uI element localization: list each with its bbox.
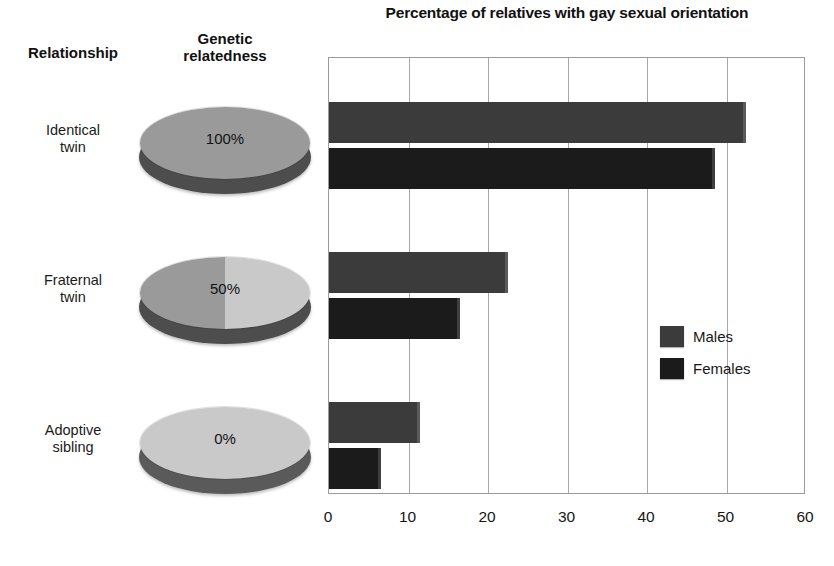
x-tick-label-50: 50 (704, 508, 748, 526)
legend-swatch-males-icon (660, 326, 684, 347)
relationship-label-line1: Fraternal (10, 272, 136, 289)
relationship-label-line1: Identical (10, 122, 136, 139)
bar-identical-twin-males[interactable] (329, 102, 746, 143)
legend-swatch-females-icon (660, 358, 684, 379)
column-header-genetic-relatedness: Genetic relatedness (140, 31, 310, 65)
column-header-genetic-line1: Genetic (140, 31, 310, 48)
bar-fraternal-twin-females[interactable] (329, 298, 460, 339)
relationship-label-fraternal-twin: Fraternal twin (10, 272, 136, 307)
pie-value-identical-twin: 100% (135, 130, 315, 147)
x-tick-label-60: 60 (783, 508, 827, 526)
chart-figure: Percentage of relatives with gay sexual … (0, 0, 834, 566)
pie-chart-identical-twin: 100% (135, 104, 315, 208)
pie-chart-fraternal-twin: 50% (135, 254, 315, 358)
x-tick-label-20: 20 (465, 508, 509, 526)
bar-fraternal-twin-males[interactable] (329, 252, 508, 293)
pie-chart-adoptive-sibling: 0% (135, 404, 315, 508)
bar-cap (743, 102, 746, 143)
legend-item-females[interactable]: Females (660, 352, 792, 384)
relationship-label-line2: twin (10, 139, 136, 156)
chart-legend: Males Females (660, 320, 792, 384)
x-tick-label-10: 10 (386, 508, 430, 526)
legend-label-females: Females (693, 360, 751, 377)
relationship-label-line1: Adoptive (10, 422, 136, 439)
bar-cap (378, 448, 381, 489)
relationship-label-identical-twin: Identical twin (10, 122, 136, 157)
legend-label-males: Males (693, 328, 733, 345)
column-header-relationship: Relationship (18, 44, 128, 61)
column-header-genetic-line2: relatedness (140, 48, 310, 65)
chart-title: Percentage of relatives with gay sexual … (328, 4, 806, 22)
bar-adoptive-sibling-females[interactable] (329, 448, 381, 489)
relationship-label-line2: twin (10, 289, 136, 306)
bar-cap (417, 402, 420, 443)
x-tick-label-0: 0 (306, 508, 350, 526)
relationship-label-adoptive-sibling: Adoptive sibling (10, 422, 136, 457)
plot-area (328, 57, 805, 494)
bar-adoptive-sibling-males[interactable] (329, 402, 420, 443)
pie-value-adoptive-sibling: 0% (135, 430, 315, 447)
bar-cap (457, 298, 460, 339)
x-tick-label-40: 40 (624, 508, 668, 526)
bar-cap (712, 148, 715, 189)
bar-identical-twin-females[interactable] (329, 148, 715, 189)
x-tick-label-30: 30 (545, 508, 589, 526)
bar-cap (505, 252, 508, 293)
pie-value-fraternal-twin: 50% (135, 280, 315, 297)
relationship-label-line2: sibling (10, 439, 136, 456)
legend-item-males[interactable]: Males (660, 320, 792, 352)
